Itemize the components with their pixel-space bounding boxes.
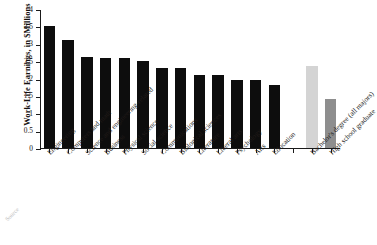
- y-tick-mark: [36, 114, 41, 115]
- y-tick-mark: [36, 132, 41, 133]
- y-tick-mark: [36, 149, 41, 150]
- y-tick-mark: [36, 97, 41, 98]
- bar: [44, 26, 56, 148]
- y-tick-label: 1: [29, 109, 33, 119]
- y-tick-label: 2: [29, 74, 33, 84]
- bar: [269, 85, 281, 148]
- y-tick-mark: [36, 10, 41, 11]
- y-tick-label: 0.5: [24, 126, 33, 136]
- y-tick-mark: [36, 27, 41, 28]
- y-tick-mark: [36, 45, 41, 46]
- y-tick-label: 4: [29, 5, 33, 15]
- y-tick-label: 2.5: [24, 57, 33, 67]
- y-tick-label: 0: [29, 144, 33, 154]
- y-tick-label: 3: [29, 39, 33, 49]
- x-axis-labels: EngineeringComputers and mathScience and…: [40, 151, 360, 245]
- y-tick-label: 3.5: [24, 22, 33, 32]
- y-tick-mark: [36, 62, 41, 63]
- y-tick-label: 1.5: [24, 91, 33, 101]
- y-tick-mark: [36, 80, 41, 81]
- bar: [306, 66, 318, 148]
- source-note: Source: [4, 206, 20, 222]
